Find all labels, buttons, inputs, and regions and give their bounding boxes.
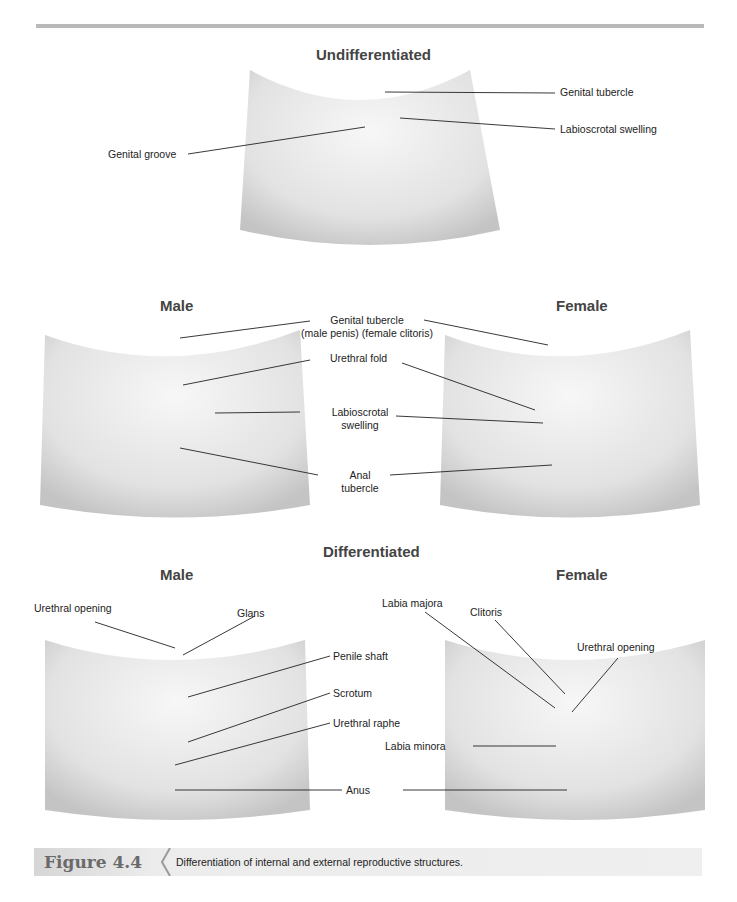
figure-number: Figure 4.4 — [44, 852, 142, 872]
label-anal-2: tubercle — [330, 482, 390, 495]
label-labioscrotal-1: Labioscrotal — [320, 406, 400, 419]
label-labioscrotal-swelling: Labioscrotal swelling — [560, 123, 657, 136]
figure-caption: Differentiation of internal and external… — [176, 856, 463, 868]
label-genital-tubercle: Genital tubercle — [560, 86, 634, 99]
heading-undifferentiated: Undifferentiated — [316, 46, 431, 63]
label-genital-tubercle-intermediate: Genital tubercle — [312, 314, 422, 327]
heading-female: Female — [556, 297, 608, 314]
heading-differentiated-male: Male — [160, 566, 193, 583]
label-genital-tubercle-sub: (male penis) (female clitoris) — [282, 327, 452, 340]
label-scrotum: Scrotum — [333, 687, 372, 700]
undifferentiated-figure — [240, 70, 500, 245]
label-clitoris: Clitoris — [470, 606, 502, 619]
differentiated-female-figure — [445, 640, 705, 820]
label-anal-1: Anal — [330, 469, 390, 482]
label-anus: Anus — [346, 784, 370, 797]
label-urethral-opening-female: Urethral opening — [577, 641, 655, 654]
label-urethral-raphe: Urethral raphe — [333, 717, 400, 730]
label-labioscrotal-2: swelling — [320, 419, 400, 432]
heading-differentiated: Differentiated — [323, 543, 420, 560]
intermediate-male-figure — [40, 330, 310, 518]
label-glans: Glans — [237, 607, 264, 620]
heading-male: Male — [160, 297, 193, 314]
label-penile-shaft: Penile shaft — [333, 650, 388, 663]
label-urethral-opening-male: Urethral opening — [34, 602, 112, 615]
label-genital-groove: Genital groove — [108, 148, 176, 161]
label-urethral-fold: Urethral fold — [330, 352, 387, 365]
differentiated-male-figure — [45, 640, 310, 820]
label-labia-majora: Labia majora — [382, 597, 443, 610]
chevron-divider-icon — [158, 848, 174, 876]
intermediate-female-figure — [440, 330, 700, 518]
label-labia-minora: Labia minora — [385, 740, 446, 753]
heading-differentiated-female: Female — [556, 566, 608, 583]
